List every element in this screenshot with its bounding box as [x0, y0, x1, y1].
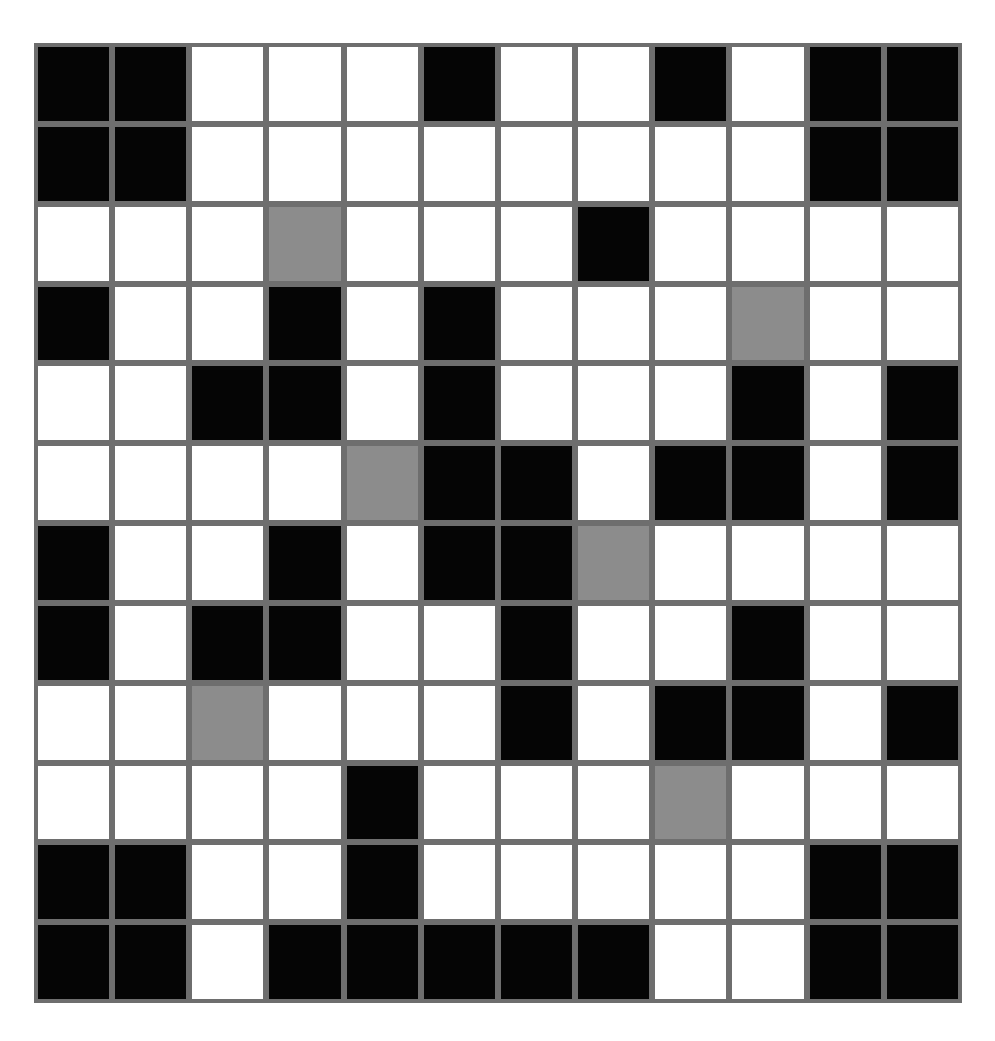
white-cell[interactable]	[38, 207, 109, 281]
black-cell[interactable]	[269, 925, 340, 999]
gray-cell[interactable]	[578, 526, 649, 600]
white-cell[interactable]	[192, 446, 263, 520]
white-cell[interactable]	[887, 606, 958, 680]
white-cell[interactable]	[732, 925, 803, 999]
black-cell[interactable]	[38, 287, 109, 361]
black-cell[interactable]	[732, 366, 803, 440]
white-cell[interactable]	[578, 446, 649, 520]
black-cell[interactable]	[887, 47, 958, 121]
white-cell[interactable]	[578, 366, 649, 440]
white-cell[interactable]	[578, 686, 649, 760]
white-cell[interactable]	[115, 287, 186, 361]
white-cell[interactable]	[424, 845, 495, 919]
black-cell[interactable]	[810, 925, 881, 999]
white-cell[interactable]	[732, 766, 803, 840]
white-cell[interactable]	[38, 366, 109, 440]
white-cell[interactable]	[578, 606, 649, 680]
black-cell[interactable]	[192, 606, 263, 680]
black-cell[interactable]	[424, 287, 495, 361]
white-cell[interactable]	[424, 686, 495, 760]
black-cell[interactable]	[887, 366, 958, 440]
white-cell[interactable]	[578, 766, 649, 840]
white-cell[interactable]	[115, 686, 186, 760]
white-cell[interactable]	[732, 207, 803, 281]
black-cell[interactable]	[578, 207, 649, 281]
white-cell[interactable]	[501, 845, 572, 919]
white-cell[interactable]	[887, 526, 958, 600]
white-cell[interactable]	[347, 207, 418, 281]
white-cell[interactable]	[655, 845, 726, 919]
black-cell[interactable]	[501, 686, 572, 760]
white-cell[interactable]	[192, 207, 263, 281]
white-cell[interactable]	[810, 287, 881, 361]
white-cell[interactable]	[424, 766, 495, 840]
white-cell[interactable]	[732, 127, 803, 201]
white-cell[interactable]	[501, 127, 572, 201]
black-cell[interactable]	[424, 446, 495, 520]
white-cell[interactable]	[424, 606, 495, 680]
black-cell[interactable]	[38, 845, 109, 919]
black-cell[interactable]	[732, 446, 803, 520]
white-cell[interactable]	[655, 127, 726, 201]
white-cell[interactable]	[887, 207, 958, 281]
white-cell[interactable]	[810, 526, 881, 600]
white-cell[interactable]	[578, 47, 649, 121]
white-cell[interactable]	[810, 446, 881, 520]
white-cell[interactable]	[424, 127, 495, 201]
black-cell[interactable]	[269, 287, 340, 361]
black-cell[interactable]	[347, 845, 418, 919]
white-cell[interactable]	[810, 686, 881, 760]
black-cell[interactable]	[655, 686, 726, 760]
black-cell[interactable]	[269, 366, 340, 440]
white-cell[interactable]	[347, 526, 418, 600]
white-cell[interactable]	[38, 446, 109, 520]
white-cell[interactable]	[192, 287, 263, 361]
white-cell[interactable]	[578, 127, 649, 201]
white-cell[interactable]	[347, 287, 418, 361]
white-cell[interactable]	[192, 526, 263, 600]
black-cell[interactable]	[424, 526, 495, 600]
black-cell[interactable]	[732, 606, 803, 680]
white-cell[interactable]	[887, 766, 958, 840]
white-cell[interactable]	[578, 845, 649, 919]
black-cell[interactable]	[501, 606, 572, 680]
white-cell[interactable]	[732, 845, 803, 919]
gray-cell[interactable]	[269, 207, 340, 281]
black-cell[interactable]	[192, 366, 263, 440]
black-cell[interactable]	[424, 366, 495, 440]
white-cell[interactable]	[347, 127, 418, 201]
gray-cell[interactable]	[655, 766, 726, 840]
black-cell[interactable]	[38, 127, 109, 201]
white-cell[interactable]	[810, 207, 881, 281]
black-cell[interactable]	[115, 127, 186, 201]
white-cell[interactable]	[655, 526, 726, 600]
black-cell[interactable]	[115, 925, 186, 999]
black-cell[interactable]	[578, 925, 649, 999]
white-cell[interactable]	[501, 207, 572, 281]
white-cell[interactable]	[501, 766, 572, 840]
black-cell[interactable]	[424, 47, 495, 121]
white-cell[interactable]	[192, 845, 263, 919]
black-cell[interactable]	[732, 686, 803, 760]
white-cell[interactable]	[192, 925, 263, 999]
black-cell[interactable]	[887, 686, 958, 760]
black-cell[interactable]	[269, 526, 340, 600]
white-cell[interactable]	[732, 526, 803, 600]
white-cell[interactable]	[655, 606, 726, 680]
white-cell[interactable]	[269, 127, 340, 201]
white-cell[interactable]	[501, 366, 572, 440]
black-cell[interactable]	[655, 47, 726, 121]
white-cell[interactable]	[347, 47, 418, 121]
white-cell[interactable]	[115, 766, 186, 840]
white-cell[interactable]	[347, 686, 418, 760]
black-cell[interactable]	[887, 845, 958, 919]
black-cell[interactable]	[810, 845, 881, 919]
white-cell[interactable]	[115, 446, 186, 520]
black-cell[interactable]	[887, 127, 958, 201]
black-cell[interactable]	[887, 925, 958, 999]
white-cell[interactable]	[732, 47, 803, 121]
white-cell[interactable]	[810, 766, 881, 840]
black-cell[interactable]	[501, 526, 572, 600]
white-cell[interactable]	[115, 526, 186, 600]
black-cell[interactable]	[38, 606, 109, 680]
